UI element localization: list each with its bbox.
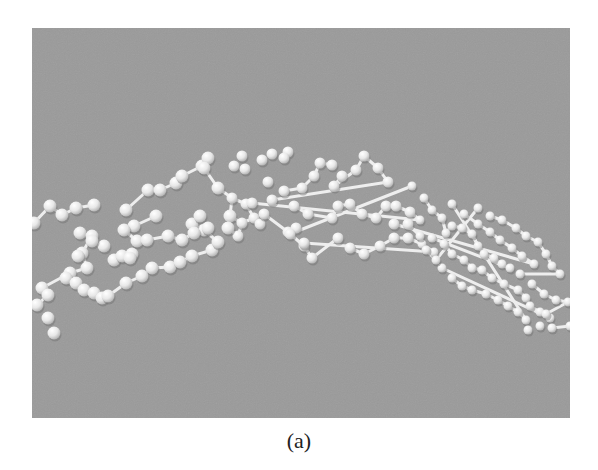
- atom-sphere: [416, 216, 425, 225]
- atom-sphere: [552, 296, 561, 305]
- atom-sphere: [327, 160, 338, 171]
- atom-sphere: [240, 164, 251, 175]
- atom-sphere: [468, 230, 477, 239]
- atom-sphere: [508, 244, 517, 253]
- atom-sphere: [381, 201, 392, 212]
- atom-sphere: [309, 171, 320, 182]
- atom-sphere: [526, 302, 535, 311]
- atom-sphere: [118, 224, 131, 237]
- atom-sphere: [267, 195, 278, 206]
- atom-sphere: [279, 153, 290, 164]
- atom-sphere: [405, 207, 416, 218]
- atom-sphere: [74, 227, 87, 240]
- atom-sphere: [44, 200, 57, 213]
- atom-sphere: [154, 184, 167, 197]
- atom-sphere: [504, 302, 513, 311]
- atom-sphere: [488, 274, 497, 283]
- atom-sphere: [460, 256, 469, 265]
- atom-sphere: [389, 219, 400, 230]
- atom-sphere: [548, 262, 557, 271]
- atom-sphere: [448, 200, 457, 209]
- atom-sphere: [70, 202, 83, 215]
- atom-sphere: [496, 236, 505, 245]
- atom-sphere: [416, 232, 425, 241]
- atom-sphere: [329, 181, 340, 192]
- atom-sphere: [516, 270, 525, 279]
- atom-sphere: [403, 233, 414, 244]
- atom-sphere: [536, 322, 545, 331]
- atom-sphere: [438, 214, 447, 223]
- atom-sphere: [257, 155, 268, 166]
- atom-sphere: [150, 210, 163, 223]
- atom-sphere: [375, 241, 386, 252]
- atom-sphere: [285, 229, 296, 240]
- atom-sphere: [468, 286, 477, 295]
- atom-sphere: [420, 194, 429, 203]
- atom-sphere: [478, 266, 487, 275]
- atom-sphere: [146, 262, 159, 275]
- atom-sphere: [188, 227, 201, 240]
- atom-sphere: [490, 254, 499, 263]
- atom-sphere: [229, 161, 240, 172]
- atom-sphere: [327, 213, 338, 224]
- atom-sphere: [174, 256, 187, 269]
- atom-sphere: [524, 326, 533, 335]
- atom-sphere: [98, 240, 111, 253]
- atom-sphere: [86, 235, 99, 248]
- atom-sphere: [540, 290, 549, 299]
- atom-sphere: [512, 224, 521, 233]
- atom-sphere: [42, 312, 55, 325]
- atom-sphere: [212, 182, 225, 195]
- atom-sphere: [534, 238, 543, 247]
- atom-sphere: [389, 233, 400, 244]
- atom-sphere: [194, 210, 207, 223]
- atom-sphere: [227, 193, 238, 204]
- atom-sphere: [480, 250, 489, 259]
- atom-sphere: [162, 230, 175, 243]
- atom-sphere: [506, 264, 515, 273]
- atom-sphere: [297, 183, 308, 194]
- atom-sphere: [448, 250, 457, 259]
- atom-sphere: [267, 149, 278, 160]
- atom-sphere: [522, 316, 531, 325]
- atom-sphere: [428, 234, 437, 243]
- atom-sphere: [474, 220, 483, 229]
- atom-sphere: [237, 151, 248, 162]
- figure-panel: [32, 28, 570, 418]
- atom-sphere: [345, 243, 356, 254]
- atom-sphere: [373, 163, 384, 174]
- atom-sphere: [299, 238, 310, 249]
- atom-sphere: [307, 253, 318, 264]
- atom-sphere: [458, 282, 467, 291]
- atom-sphere: [528, 280, 537, 289]
- atom-sphere: [498, 216, 507, 225]
- atom-sphere: [474, 204, 483, 213]
- atom-sphere: [337, 171, 348, 182]
- atom-sphere: [333, 201, 344, 212]
- atom-sphere: [263, 177, 274, 188]
- atom-sphere: [440, 240, 449, 249]
- atom-sphere: [176, 234, 189, 247]
- atom-sphere: [359, 151, 370, 162]
- atom-sphere: [359, 249, 370, 260]
- atom-sphere: [279, 186, 290, 197]
- atom-sphere: [391, 201, 402, 212]
- molecular-structure-render: [32, 28, 570, 418]
- atom-sphere: [247, 198, 258, 209]
- atom-sphere: [289, 201, 300, 212]
- atom-sphere: [518, 252, 527, 261]
- atom-sphere: [120, 204, 133, 217]
- atom-sphere: [428, 206, 437, 215]
- atom-sphere: [460, 210, 469, 219]
- atom-sphere: [303, 209, 314, 220]
- atom-sphere: [422, 246, 431, 255]
- atom-sphere: [351, 165, 362, 176]
- atom-sphere: [486, 212, 495, 221]
- atom-sphere: [345, 199, 356, 210]
- atom-sphere: [542, 310, 551, 319]
- atom-sphere: [371, 213, 382, 224]
- atom-sphere: [500, 280, 509, 289]
- atom-sphere: [498, 260, 507, 269]
- atom-sphere: [468, 264, 477, 273]
- atom-sphere: [448, 274, 457, 283]
